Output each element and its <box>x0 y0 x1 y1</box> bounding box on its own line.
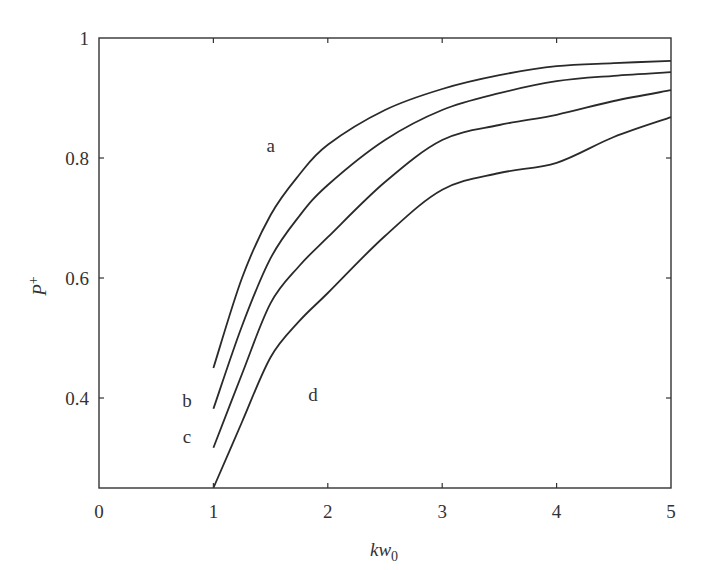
line-chart: 012345 0.40.60.81 abcd kw0 P+ <box>0 0 706 570</box>
y-axis-label: P+ <box>26 276 50 297</box>
y-tick-label: 0.8 <box>65 148 89 169</box>
x-tick-label: 4 <box>552 501 562 522</box>
x-tick-label: 0 <box>94 501 104 522</box>
plot-border <box>99 38 671 488</box>
x-axis-label: kw0 <box>370 539 398 564</box>
y-axis-ticks: 0.40.60.81 <box>65 28 671 409</box>
y-tick-label: 1 <box>80 28 90 49</box>
curve-b <box>213 72 671 409</box>
curve-c <box>213 90 671 448</box>
x-tick-label: 5 <box>666 501 676 522</box>
curve-label-d: d <box>308 384 318 405</box>
curve-label-b: b <box>182 390 192 411</box>
curve-d <box>213 117 671 488</box>
plot-frame <box>99 38 671 488</box>
x-tick-label: 3 <box>437 501 447 522</box>
y-tick-label: 0.4 <box>65 388 89 409</box>
curve-a <box>213 61 671 368</box>
curve-label-a: a <box>266 135 275 156</box>
x-tick-label: 1 <box>209 501 219 522</box>
curves <box>213 61 671 488</box>
curve-label-c: c <box>183 426 191 447</box>
x-tick-label: 2 <box>323 501 333 522</box>
y-tick-label: 0.6 <box>65 268 89 289</box>
